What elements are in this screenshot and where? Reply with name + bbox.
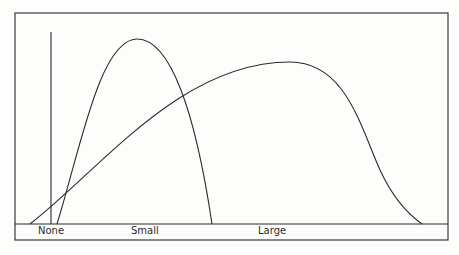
- distribution-diagram: [0, 0, 459, 255]
- large-effect-curve: [30, 62, 422, 224]
- diagram-canvas: None Small Large: [0, 0, 459, 255]
- category-label-none: None: [38, 225, 64, 237]
- diagram-frame: [15, 13, 448, 240]
- category-label-small: Small: [131, 225, 159, 237]
- category-label-large: Large: [258, 225, 286, 237]
